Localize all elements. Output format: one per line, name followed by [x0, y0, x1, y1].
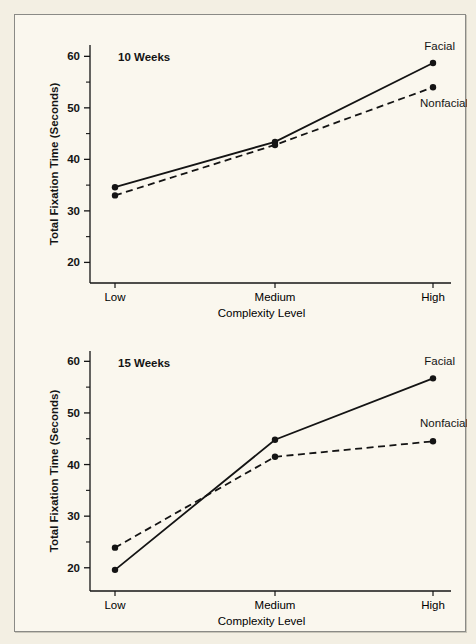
data-point-marker [430, 375, 436, 381]
x-tick-label: High [421, 291, 445, 303]
x-tick-label: Low [104, 291, 126, 303]
x-tick-label: Low [104, 599, 126, 611]
chart-panel-15-weeks: 2030405060LowMediumHighTotal Fixation Ti… [15, 323, 467, 633]
y-tick-label: 60 [67, 355, 80, 367]
x-axis-title: Complexity Level [218, 615, 306, 627]
data-point-marker [112, 184, 118, 190]
data-point-marker [272, 437, 278, 443]
y-tick-label: 50 [67, 102, 80, 114]
x-tick-label: High [421, 599, 445, 611]
series-label-nonfacial: Nonfacial [420, 417, 467, 429]
series-line-facial [115, 63, 433, 187]
y-tick-label: 20 [67, 562, 80, 574]
y-tick-label: 60 [67, 50, 80, 62]
x-tick-label: Medium [255, 291, 296, 303]
y-tick-label: 40 [67, 459, 80, 471]
y-tick-label: 50 [67, 407, 80, 419]
data-point-marker [112, 192, 118, 198]
data-point-marker [430, 84, 436, 90]
series-label-facial: Facial [424, 40, 455, 52]
series-label-nonfacial: Nonfacial [420, 97, 467, 109]
y-tick-label: 30 [67, 205, 80, 217]
data-point-marker [112, 544, 118, 550]
line-chart-15-weeks: 2030405060LowMediumHighTotal Fixation Ti… [15, 323, 467, 633]
data-point-marker [272, 454, 278, 460]
data-point-marker [430, 60, 436, 66]
panel-title: 10 Weeks [118, 51, 170, 63]
series-label-facial: Facial [424, 355, 455, 367]
data-point-marker [112, 567, 118, 573]
chart-panel-10-weeks: 2030405060LowMediumHighTotal Fixation Ti… [15, 15, 467, 323]
data-point-marker [430, 438, 436, 444]
figure-frame: 2030405060LowMediumHighTotal Fixation Ti… [14, 14, 466, 632]
y-axis-title: Total Fixation Time (Seconds) [48, 390, 60, 553]
panel-title: 15 Weeks [118, 357, 170, 369]
y-tick-label: 20 [67, 256, 80, 268]
series-line-facial [115, 378, 433, 569]
y-tick-label: 30 [67, 510, 80, 522]
x-axis-title: Complexity Level [218, 307, 306, 319]
x-tick-label: Medium [255, 599, 296, 611]
y-axis-title: Total Fixation Time (Seconds) [48, 83, 60, 246]
data-point-marker [272, 142, 278, 148]
line-chart-10-weeks: 2030405060LowMediumHighTotal Fixation Ti… [15, 15, 467, 323]
y-tick-label: 40 [67, 153, 80, 165]
